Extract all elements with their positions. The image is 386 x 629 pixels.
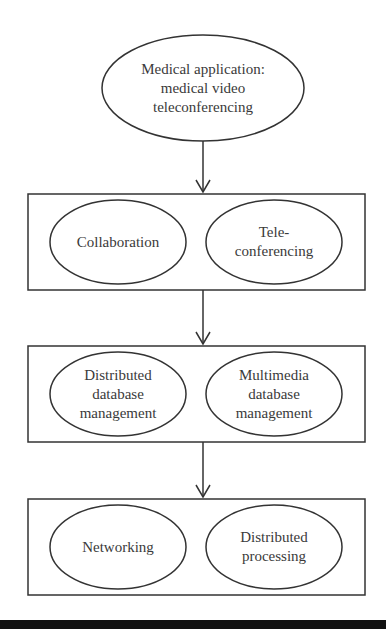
node-label-distributed-processing: Distributed processing — [206, 505, 342, 589]
node-label-networking: Networking — [50, 505, 186, 589]
node-label-collaboration: Collaboration — [50, 200, 186, 284]
arrow-down-icon — [196, 290, 210, 344]
top-node-label: Medical application: medical video telec… — [102, 40, 304, 136]
node-label-teleconferencing: Tele- conferencing — [206, 200, 342, 284]
arrow-down-icon — [196, 442, 210, 497]
node-label-multimedia-db: Multimedia database management — [206, 352, 342, 436]
node-label-distributed-db: Distributed database management — [50, 352, 186, 436]
footer-bar — [0, 620, 386, 629]
arrow-down-icon — [196, 141, 210, 192]
